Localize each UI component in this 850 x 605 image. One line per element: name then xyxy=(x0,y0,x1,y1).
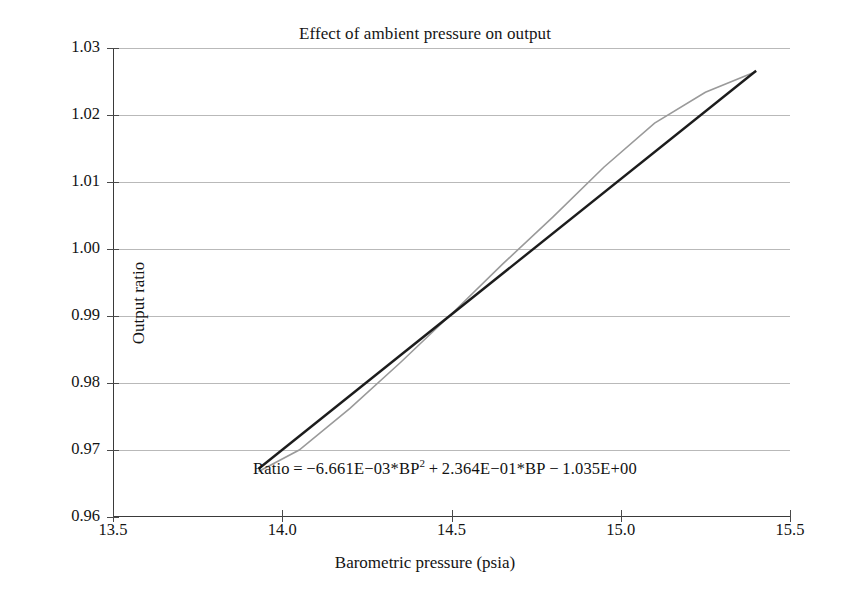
x-tick-label: 14.5 xyxy=(412,522,492,539)
series-linear-trend xyxy=(259,71,757,469)
y-tick-label: 0.98 xyxy=(42,374,100,391)
data-series-group xyxy=(113,48,790,517)
chart-figure: Effect of ambient pressure on output 1.0… xyxy=(0,0,850,605)
chart-title: Effect of ambient pressure on output xyxy=(0,24,850,44)
y-tick-label: 1.03 xyxy=(42,39,100,56)
x-tick-label: 15.0 xyxy=(581,522,661,539)
plot-area: 1.031.021.011.000.990.980.970.96 13.514.… xyxy=(113,48,790,517)
equation-lead: Ratio = −6.661E−03*BP xyxy=(253,459,420,478)
x-tick-label: 15.5 xyxy=(750,522,830,539)
y-tick-label: 1.00 xyxy=(42,240,100,257)
y-tick-label: 1.01 xyxy=(42,173,100,190)
equation-tail: + 2.364E−01*BP − 1.035E+00 xyxy=(425,459,637,478)
y-tick-label: 0.99 xyxy=(42,307,100,324)
y-tick-label: 0.97 xyxy=(42,441,100,458)
x-axis-title: Barometric pressure (psia) xyxy=(0,553,850,573)
x-tick-label: 14.0 xyxy=(242,522,322,539)
y-axis-title: Output ratio xyxy=(129,23,149,583)
regression-equation-annotation: Ratio = −6.661E−03*BP2 + 2.364E−01*BP − … xyxy=(253,457,637,479)
y-tick-label: 1.02 xyxy=(42,106,100,123)
